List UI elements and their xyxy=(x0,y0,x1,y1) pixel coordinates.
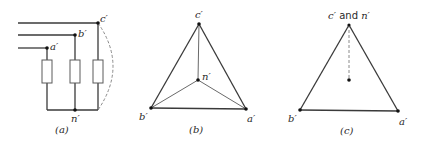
neutral-n-dot xyxy=(196,78,200,82)
spoke-n-c xyxy=(198,24,199,80)
node-a-dot xyxy=(45,46,49,50)
label-n-node: n′ xyxy=(71,113,80,124)
side-c-a xyxy=(349,25,398,111)
label-b-node: b′ xyxy=(78,28,87,39)
spoke-n-b xyxy=(151,80,198,108)
panel-b-phasor: c′ n′ b′ a′ (b) xyxy=(139,9,256,135)
side-c-a xyxy=(199,24,246,109)
label-c-vertex: c′ xyxy=(195,9,204,20)
node-b-dot xyxy=(73,33,77,37)
label-and-part: and xyxy=(336,10,361,21)
spoke-n-a xyxy=(198,80,246,109)
vertex-b-dot xyxy=(149,106,153,110)
resistor-a xyxy=(42,60,52,83)
resistor-b xyxy=(70,60,80,83)
resistor-c xyxy=(93,60,103,83)
vertex-c-dot xyxy=(197,22,201,26)
side-b-a xyxy=(151,108,246,109)
label-b-vertex: b′ xyxy=(139,111,148,122)
label-n-part: n′ xyxy=(361,10,370,21)
side-c-b xyxy=(151,24,199,108)
side-c-b xyxy=(300,25,349,110)
node-n-dot xyxy=(73,108,77,112)
caption-c: (c) xyxy=(340,125,354,136)
panel-c-phasor: c′ and n′ b′ a′ (c) xyxy=(288,10,408,136)
vertex-a-dot xyxy=(244,107,248,111)
label-c-and-n: c′ and n′ xyxy=(328,10,370,21)
label-a-vertex: a′ xyxy=(247,113,256,124)
center-dot xyxy=(347,78,351,82)
vertex-a-dot xyxy=(396,109,400,113)
label-n-point: n′ xyxy=(202,71,211,82)
side-b-a xyxy=(300,110,398,111)
panel-a-circuit: a′ b′ c′ n′ (a) xyxy=(18,13,113,135)
label-a-node: a′ xyxy=(50,41,59,52)
label-c-node: c′ xyxy=(100,13,109,24)
label-a-vertex: a′ xyxy=(399,116,408,127)
vertex-c-dot xyxy=(347,23,350,26)
caption-a: (a) xyxy=(55,124,69,135)
three-phase-figure: a′ b′ c′ n′ (a) c′ n′ b′ a′ (b) xyxy=(0,0,424,143)
label-b-vertex: b′ xyxy=(288,113,297,124)
caption-b: (b) xyxy=(189,124,203,135)
vertex-b-dot xyxy=(298,108,302,112)
